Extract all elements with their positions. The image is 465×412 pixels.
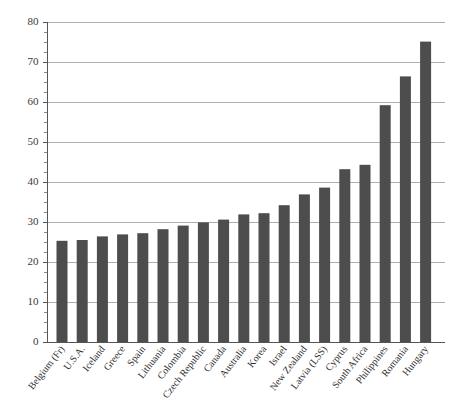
bar — [238, 214, 249, 342]
bar — [137, 233, 148, 342]
y-tick-label: 40 — [28, 175, 40, 187]
y-tick-label: 50 — [28, 135, 40, 147]
x-tick-label: Belgium (Fr) — [26, 343, 68, 392]
bar — [198, 222, 209, 342]
y-tick-label: 60 — [28, 95, 40, 107]
bar — [158, 229, 169, 342]
y-axis: 01020304050607080 — [28, 15, 48, 347]
bar — [97, 236, 108, 342]
x-tick-label: Greece — [101, 343, 127, 373]
bar — [380, 105, 391, 342]
bar — [117, 234, 128, 342]
bar — [259, 213, 270, 342]
bar-chart: 01020304050607080 Belgium (Fr)U.S.A.Icel… — [0, 0, 465, 412]
chart-canvas: 01020304050607080 Belgium (Fr)U.S.A.Icel… — [0, 0, 465, 412]
y-tick-label: 0 — [33, 335, 39, 347]
y-tick-label: 70 — [28, 55, 40, 67]
y-tick-label: 80 — [28, 15, 40, 27]
bar — [218, 220, 229, 342]
x-tick-label: Iceland — [80, 343, 107, 373]
bar — [420, 42, 431, 342]
bar — [319, 188, 330, 342]
y-tick-label: 10 — [28, 295, 40, 307]
y-tick-label: 20 — [28, 255, 40, 267]
x-tick-labels: Belgium (Fr)U.S.A.IcelandGreeceSpainLith… — [26, 343, 431, 400]
y-tick-label: 30 — [28, 215, 40, 227]
bar — [279, 205, 290, 342]
bar — [339, 169, 350, 342]
bar — [299, 194, 310, 342]
bar — [77, 240, 88, 342]
bar — [360, 165, 371, 342]
bars — [57, 42, 432, 342]
x-tick-label: Korea — [245, 343, 269, 369]
bar — [57, 241, 68, 342]
bar — [178, 226, 189, 342]
bar — [400, 76, 411, 342]
